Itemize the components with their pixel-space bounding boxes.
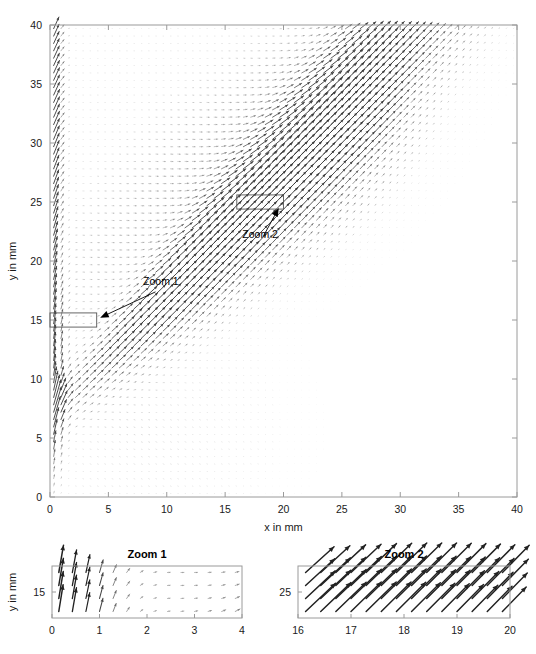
y-tick-label: 30 xyxy=(30,137,42,149)
x-tick-label: 15 xyxy=(219,503,231,515)
x-tick-label: 10 xyxy=(161,503,173,515)
zoom1-y-tick-label: 15 xyxy=(33,586,45,598)
x-tick-label: 5 xyxy=(105,503,111,515)
zoom2-y-tick-label: 25 xyxy=(279,586,291,598)
y-tick-label: 25 xyxy=(30,196,42,208)
inset-zoom1-title: Zoom 1 xyxy=(127,548,166,560)
annotation-label-zoom-1: Zoom 1 xyxy=(143,275,179,287)
main-y-axis-label: y in mm xyxy=(6,242,18,281)
zoom1-x-tick-label: 1 xyxy=(97,624,103,636)
y-tick-label: 5 xyxy=(36,432,42,444)
y-tick-label: 15 xyxy=(30,314,42,326)
inset-zoom2-title: Zoom 2 xyxy=(384,548,423,560)
x-tick-label: 20 xyxy=(278,503,290,515)
zoom2-x-tick-label: 20 xyxy=(504,624,516,636)
inset-zoom1-y-axis-label: y in mm xyxy=(6,573,18,612)
x-tick-label: 35 xyxy=(453,503,465,515)
zoom1-x-tick-label: 3 xyxy=(192,624,198,636)
main-x-axis-label: x in mm xyxy=(264,521,303,533)
zoom1-x-tick-label: 0 xyxy=(49,624,55,636)
zoom2-x-tick-label: 19 xyxy=(451,624,463,636)
zoom1-x-tick-label: 4 xyxy=(239,624,245,636)
y-tick-label: 40 xyxy=(30,19,42,31)
zoom2-x-tick-label: 17 xyxy=(345,624,357,636)
y-tick-label: 0 xyxy=(36,491,42,503)
annotation-label-zoom-2: Zoom 2 xyxy=(242,228,278,240)
x-tick-label: 25 xyxy=(336,503,348,515)
velocity-vector-field-figure: 05101520253035400510152025303540 Zoom 1Z… xyxy=(0,0,536,654)
zoom1-x-tick-label: 2 xyxy=(144,624,150,636)
zoom2-x-tick-label: 18 xyxy=(398,624,410,636)
x-tick-label: 40 xyxy=(511,503,523,515)
x-tick-label: 30 xyxy=(394,503,406,515)
y-tick-label: 20 xyxy=(30,255,42,267)
x-tick-label: 0 xyxy=(47,503,53,515)
zoom2-x-tick-label: 16 xyxy=(292,624,304,636)
y-tick-label: 10 xyxy=(30,373,42,385)
y-tick-label: 35 xyxy=(30,78,42,90)
